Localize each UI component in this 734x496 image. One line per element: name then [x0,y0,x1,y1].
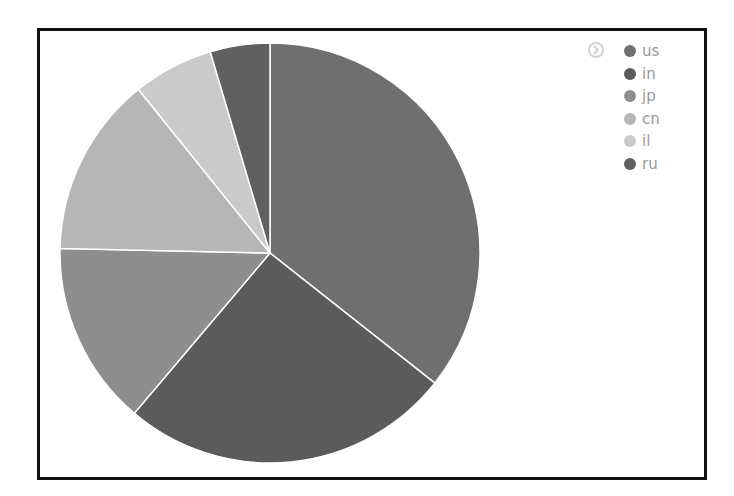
pie-slices [60,43,480,463]
legend-dot-icon [624,158,636,170]
legend-item-us[interactable]: us [624,40,660,63]
legend-dot-icon [624,90,636,102]
legend: us in jp cn il ru [624,40,660,175]
legend-dot-icon [624,45,636,57]
legend-dot-icon [624,68,636,80]
legend-item-ru[interactable]: ru [624,153,660,176]
legend-item-jp[interactable]: jp [624,85,660,108]
legend-dot-icon [624,135,636,147]
legend-item-cn[interactable]: cn [624,108,660,131]
legend-item-in[interactable]: in [624,63,660,86]
legend-item-il[interactable]: il [624,130,660,153]
legend-toggle-arrow-icon[interactable] [588,42,604,58]
legend-dot-icon [624,113,636,125]
